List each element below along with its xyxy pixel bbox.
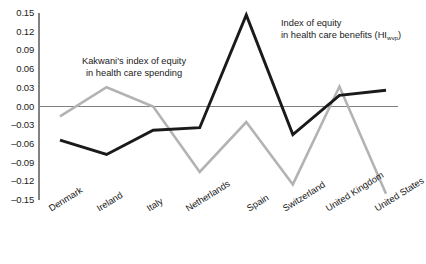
y-axis-tick-label: 0.12 — [4, 27, 34, 37]
y-axis-tick-label: 0.15 — [4, 8, 34, 18]
annotation-kakwani-spending: Kakwani's index of equity in health care… — [82, 56, 186, 79]
annotation-benefits-subscript: wvp — [387, 34, 398, 41]
y-axis-tick-label: 0.03 — [4, 83, 34, 93]
y-axis-tick-label: –0.12 — [4, 176, 34, 186]
annotation-benefits-line2: in health care benefits (HIwvp) — [281, 30, 401, 44]
y-axis-tick-label: 0.06 — [4, 64, 34, 74]
series-line-kakwani-spending — [60, 87, 386, 194]
y-axis-tick-label: –0.09 — [4, 158, 34, 168]
y-axis-tick-label: –0.15 — [4, 195, 34, 205]
x-axis: Denmark Ireland Italy Netherlands Spain … — [38, 205, 398, 264]
annotation-spending-line2: in health care spending — [82, 68, 186, 80]
y-axis-tick-label: 0.00 — [4, 102, 34, 112]
y-axis-tick-label: –0.06 — [4, 139, 34, 149]
annotation-benefits-line1: Index of equity — [281, 18, 401, 30]
plot-area: Kakwani's index of equity in health care… — [38, 0, 398, 205]
y-axis-tick-label: –0.03 — [4, 120, 34, 130]
y-axis-tick-label: 0.09 — [4, 45, 34, 55]
annotation-benefits-suffix: ) — [398, 30, 401, 40]
annotation-spending-line1: Kakwani's index of equity — [82, 56, 186, 68]
annotation-benefits-prefix: in health care benefits (HI — [281, 30, 387, 40]
annotation-equity-benefits: Index of equity in health care benefits … — [281, 18, 401, 43]
y-axis: 0.15 0.12 0.09 0.06 0.03 0.00 –0.03 –0.0… — [0, 0, 34, 264]
